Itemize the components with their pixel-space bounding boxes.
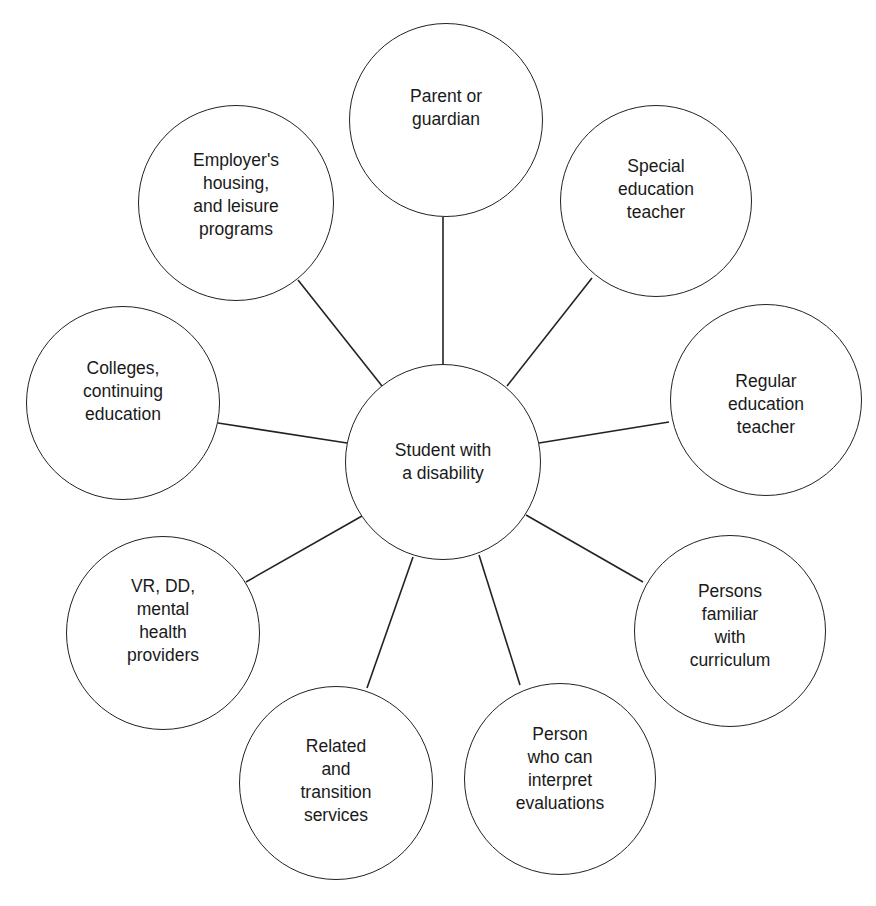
- node-label: Related and transition services: [300, 735, 371, 827]
- node-label: Colleges, continuing education: [83, 357, 163, 426]
- connector-line-special-education-teacher: [507, 278, 592, 386]
- center-node-label: Student with a disability: [395, 439, 491, 485]
- node-label: Person who can interpret evaluations: [516, 723, 605, 815]
- node-label: VR, DD, mental health providers: [127, 575, 199, 667]
- node-label: Parent or guardian: [410, 85, 482, 131]
- center-node-student-with-a-disability: Student with a disability: [345, 364, 541, 560]
- node-label: Regular education teacher: [728, 370, 804, 439]
- connector-line-employers-housing-leisure-programs: [298, 280, 382, 386]
- node-regular-education-teacher: Regular education teacher: [670, 304, 862, 496]
- stakeholder-diagram: Student with a disability Parent or guar…: [0, 0, 876, 906]
- node-vr-dd-mental-health-providers: VR, DD, mental health providers: [66, 536, 260, 730]
- node-label: Employer's housing, and leisure programs: [193, 149, 279, 241]
- node-employers-housing-leisure-programs: Employer's housing, and leisure programs: [138, 105, 334, 301]
- connector-line-regular-education-teacher: [539, 422, 669, 443]
- node-colleges-continuing-education: Colleges, continuing education: [26, 306, 220, 500]
- connector-line-persons-familiar-with-curriculum: [526, 515, 643, 582]
- connector-line-vr-dd-mental-health-providers: [246, 516, 362, 582]
- node-persons-familiar-with-curriculum: Persons familiar with curriculum: [634, 535, 826, 727]
- node-parent-or-guardian: Parent or guardian: [349, 23, 543, 217]
- node-label: Special education teacher: [618, 155, 694, 224]
- connector-line-colleges-continuing-education: [218, 423, 347, 443]
- node-special-education-teacher: Special education teacher: [560, 105, 752, 297]
- node-label: Persons familiar with curriculum: [690, 580, 771, 672]
- connector-line-person-who-can-interpret-evaluations: [479, 555, 520, 685]
- node-person-who-can-interpret-evaluations: Person who can interpret evaluations: [464, 683, 656, 875]
- connector-line-related-and-transition-services: [367, 557, 413, 688]
- node-related-and-transition-services: Related and transition services: [239, 686, 433, 880]
